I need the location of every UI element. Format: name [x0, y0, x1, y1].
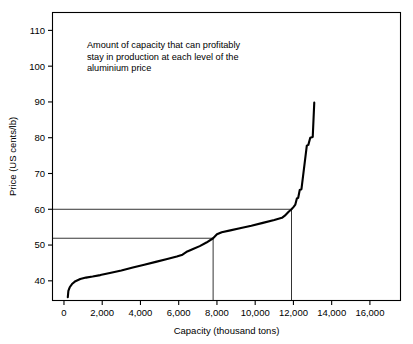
x-tick-label: 4,000: [129, 307, 153, 318]
x-tick-label: 6,000: [167, 307, 191, 318]
y-tick-label: 110: [30, 25, 45, 36]
x-tick-label: 14,000: [317, 307, 346, 318]
y-tick-label: 40: [34, 275, 45, 286]
y-tick-label: 50: [34, 239, 45, 250]
x-tick-label: 0: [61, 307, 66, 318]
x-tick-label: 2,000: [90, 307, 114, 318]
x-tick-label: 16,000: [355, 307, 384, 318]
y-tick-label: 60: [34, 204, 45, 215]
capacity-cost-curve-chart: 40506070809010011002,0004,0006,0008,0001…: [0, 0, 413, 344]
annotation-line: aluminium price: [87, 63, 151, 73]
chart-canvas: 40506070809010011002,0004,0006,0008,0001…: [0, 0, 413, 344]
annotation-line: stay in production at each level of the: [87, 52, 239, 62]
y-axis: 405060708090100110: [29, 25, 52, 286]
x-axis-title: Capacity (thousand tons): [174, 325, 280, 336]
y-tick-label: 90: [34, 96, 45, 107]
y-tick-label: 80: [34, 132, 45, 143]
y-axis-title: Price (US cents/lb): [7, 117, 18, 196]
y-tick-label: 70: [34, 168, 45, 179]
annotation-line: Amount of capacity that can profitably: [87, 40, 241, 50]
x-tick-label: 12,000: [279, 307, 308, 318]
x-tick-label: 8,000: [205, 307, 229, 318]
x-axis: 02,0004,0006,0008,00010,00012,00014,0001…: [61, 301, 384, 319]
y-tick-label: 100: [29, 61, 45, 72]
x-tick-label: 10,000: [241, 307, 270, 318]
